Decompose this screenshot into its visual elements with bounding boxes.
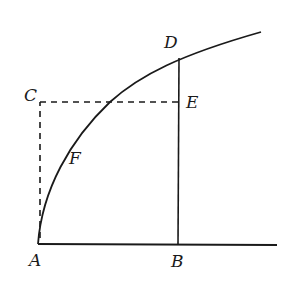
label-a: A	[29, 252, 41, 269]
label-b: B	[171, 253, 184, 270]
diagram-canvas	[0, 0, 292, 285]
baseline-ab	[38, 244, 277, 245]
label-d: D	[164, 34, 178, 51]
vertical-bd	[178, 58, 179, 245]
label-f: F	[69, 150, 81, 167]
label-c: C	[24, 87, 37, 104]
label-e: E	[186, 94, 198, 111]
curve-afd	[38, 32, 261, 244]
